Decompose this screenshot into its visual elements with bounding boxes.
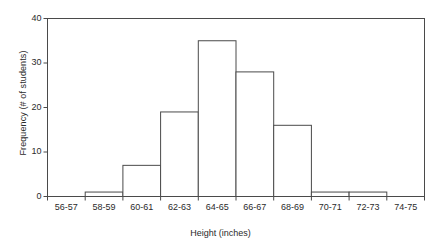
bar-62-63 — [161, 112, 199, 197]
bar-58-59 — [85, 192, 123, 196]
histogram-chart: Frequency (# of students) 010203040 56-5… — [0, 0, 441, 249]
bar-66-67 — [236, 72, 274, 197]
bar-64-65 — [198, 41, 236, 197]
bar-60-61 — [123, 165, 161, 196]
bar-70-71 — [311, 192, 349, 196]
bar-68-69 — [274, 125, 312, 196]
bar-72-73 — [349, 192, 387, 196]
x-tick-label: 74-75 — [382, 202, 430, 212]
x-axis-title: Height (inches) — [0, 228, 441, 238]
